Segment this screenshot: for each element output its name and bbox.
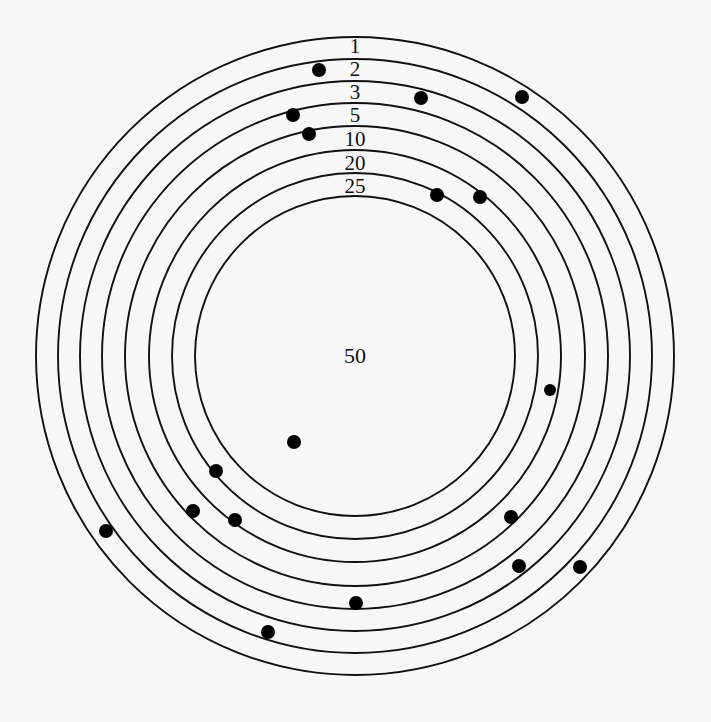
data-point [209,464,223,478]
center-label-50: 50 [344,345,366,367]
data-point [228,513,242,527]
ring-label-2: 2 [350,59,361,80]
ring-label-1: 1 [350,36,361,57]
data-point [573,560,587,574]
data-point [99,524,113,538]
ring-label-10: 10 [345,129,366,150]
data-point [286,108,300,122]
data-point [473,190,487,204]
data-point [504,510,518,524]
data-point [261,625,275,639]
data-point [287,435,301,449]
data-point [515,90,529,104]
data-point [414,91,428,105]
data-point [186,504,200,518]
data-point [544,384,556,396]
ring-label-20: 20 [345,153,366,174]
data-point [302,127,316,141]
data-point [430,188,444,202]
ring-label-3: 3 [350,82,361,103]
data-point [312,63,326,77]
data-point [512,559,526,573]
data-point [349,596,363,610]
ring-label-5: 5 [350,105,361,126]
ring-diagram: 123510202550 [0,0,711,722]
ring-label-25: 25 [345,176,366,197]
